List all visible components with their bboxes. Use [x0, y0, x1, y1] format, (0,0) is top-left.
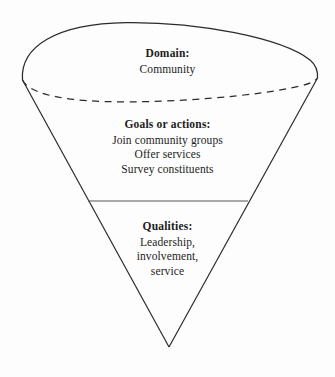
- goals-heading: Goals or actions:: [0, 117, 335, 132]
- domain-line-1: Community: [0, 62, 335, 77]
- goals-line-1: Join community groups: [0, 133, 335, 148]
- domain-section: Domain: Community: [0, 46, 335, 76]
- goals-section: Goals or actions: Join community groups …: [0, 117, 335, 177]
- goals-line-2: Offer services: [0, 147, 335, 162]
- qualities-heading: Qualities:: [0, 219, 335, 234]
- qualities-line-2: involvement,: [0, 249, 335, 264]
- cone-rim-front-arc-dashed: [23, 78, 318, 102]
- domain-heading: Domain:: [0, 46, 335, 61]
- goals-line-3: Survey constituents: [0, 162, 335, 177]
- cone-diagram: Domain: Community Goals or actions: Join…: [0, 0, 335, 377]
- qualities-section: Qualities: Leadership, involvement, serv…: [0, 219, 335, 279]
- qualities-line-1: Leadership,: [0, 235, 335, 250]
- qualities-line-3: service: [0, 264, 335, 279]
